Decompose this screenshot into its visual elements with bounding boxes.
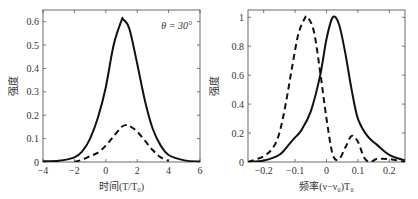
y-tick-label: 0.2: [27, 110, 40, 121]
y-tick-label: 0.6: [27, 16, 40, 27]
solid-series-line: [248, 16, 405, 162]
x-tick-label: 0.2: [383, 165, 396, 176]
y-tick-label: 0.6: [232, 70, 245, 81]
x-tick-label: 0.1: [352, 165, 365, 176]
x-tick-label: 4: [166, 165, 171, 176]
y-tick-label: 0.4: [27, 63, 40, 74]
y-axis-label: 强度: [7, 76, 19, 96]
angle-annotation: θ = 30°: [161, 20, 192, 31]
x-tick-label: 0: [103, 165, 108, 176]
time-chart: −4−2024600.10.20.30.40.50.6时间(T/T₀)强度θ =…: [7, 10, 203, 193]
x-tick-label: 2: [135, 165, 140, 176]
y-tick-label: 1: [239, 12, 244, 23]
x-tick-label: −4: [38, 165, 49, 176]
frequency-chart: −0.2−0.100.10.200.20.40.60.81频率(ν−ν₀)T₀强…: [208, 10, 405, 193]
x-tick-label: −2: [69, 165, 80, 176]
y-tick-label: 0.5: [27, 40, 40, 51]
x-tick-label: 6: [198, 165, 203, 176]
x-axis-label: 时间(T/T₀): [99, 180, 144, 193]
y-axis-label: 强度: [208, 76, 220, 96]
x-tick-label: −0.1: [286, 165, 304, 176]
axes-frame: [248, 10, 405, 162]
y-tick-label: 0.3: [27, 86, 40, 97]
y-tick-label: 0.2: [232, 128, 245, 139]
y-tick-label: 0.8: [232, 41, 245, 52]
x-tick-label: −0.2: [255, 165, 273, 176]
y-tick-label: 0.1: [27, 133, 40, 144]
y-tick-label: 0.4: [232, 99, 245, 110]
y-tick-label: 0: [34, 157, 39, 168]
x-axis-label: 频率(ν−ν₀)T₀: [299, 180, 354, 193]
solid-series-line: [43, 18, 200, 162]
y-tick-label: 0: [239, 157, 244, 168]
axes-frame: [43, 10, 200, 162]
figure: −4−2024600.10.20.30.40.50.6时间(T/T₀)强度θ =…: [0, 0, 418, 199]
x-tick-label: 0: [324, 165, 329, 176]
